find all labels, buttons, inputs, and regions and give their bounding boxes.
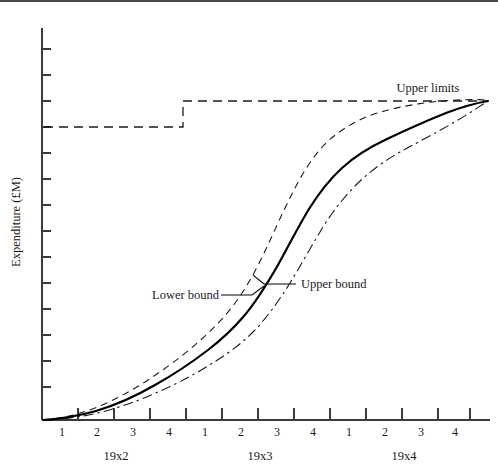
expenditure-s-curve-chart: Expenditure (£M) bbox=[0, 0, 498, 475]
x-axis-ticks bbox=[78, 408, 470, 420]
x-tick-label: 1 bbox=[59, 425, 65, 439]
chart-figure: Expenditure (£M) bbox=[0, 0, 498, 475]
lower-bound-curve bbox=[43, 100, 488, 420]
annotation-upper-limits: Upper limits bbox=[397, 81, 460, 95]
x-tick-label: 4 bbox=[452, 425, 458, 439]
leader-line-upper-bound-hook bbox=[253, 275, 264, 284]
year-label: 19x3 bbox=[248, 449, 273, 463]
x-tick-label: 3 bbox=[274, 425, 280, 439]
x-tick-label: 2 bbox=[94, 425, 100, 439]
x-tick-label: 1 bbox=[346, 425, 352, 439]
annotation-upper-bound: Upper bound bbox=[301, 277, 367, 291]
x-tick-label: 3 bbox=[418, 425, 424, 439]
y-axis-ticks bbox=[42, 49, 51, 387]
upper-bound-curve bbox=[43, 101, 488, 420]
central-estimate-curve bbox=[43, 101, 488, 420]
annotation-lower-bound: Lower bound bbox=[152, 288, 220, 302]
x-tick-label: 4 bbox=[166, 425, 172, 439]
x-tick-label: 4 bbox=[310, 425, 316, 439]
y-axis-label: Expenditure (£M) bbox=[9, 177, 23, 267]
x-tick-label: 2 bbox=[382, 425, 388, 439]
year-label: 19x4 bbox=[392, 449, 418, 463]
x-axis-quarter-labels: 1 2 3 4 1 2 3 4 1 2 3 4 bbox=[59, 425, 458, 439]
x-tick-label: 1 bbox=[202, 425, 208, 439]
x-axis-year-labels: 19x2 19x3 19x4 bbox=[104, 449, 418, 463]
x-tick-label: 3 bbox=[130, 425, 136, 439]
x-tick-label: 2 bbox=[238, 425, 244, 439]
year-label: 19x2 bbox=[104, 449, 129, 463]
